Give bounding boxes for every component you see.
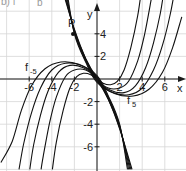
y-tick-label: 2 [100,50,106,62]
axis-ticks: -6-4-2246-6-4-224 [24,28,168,153]
x-tick-label: 4 [139,81,145,93]
x-axis-label: x [177,82,183,94]
point-p-label: P [68,17,75,29]
curve-f1 [62,0,142,85]
y-tick-label: -2 [83,96,93,108]
point-p-marker [71,32,75,36]
family-left-sub: -5 [30,67,37,76]
family-right-sub: 5 [132,100,136,109]
curve-f2 [63,0,153,89]
y-tick-label: -6 [83,141,93,153]
x-tick-label: -2 [70,81,80,93]
x-tick-label: -4 [47,81,57,93]
x-tick-label: 2 [117,81,123,93]
y-tick-label: 4 [100,28,106,40]
caption-right: b [37,0,43,8]
family-label-left: f -5 [25,61,37,76]
y-axis-label: y [87,8,93,20]
y-tick-label: -4 [83,118,93,130]
x-tick-label: 6 [162,81,168,93]
y-axis-arrow-icon [94,3,100,11]
x-tick-label: -6 [24,81,34,93]
function-family-plot: -6-4-2246-6-4-224 b) f b x y P f -5 f 5 [0,0,186,171]
caption-left: b) f [1,0,16,7]
family-left-base: f [25,61,29,73]
